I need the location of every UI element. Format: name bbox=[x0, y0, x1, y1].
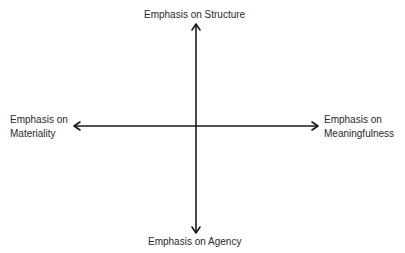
label-bottom-agency: Emphasis on Agency bbox=[148, 236, 241, 248]
label-right-line2: Meaningfulness bbox=[324, 128, 394, 140]
label-left-line2: Materiality bbox=[10, 128, 68, 140]
label-left-materiality: Emphasis on Materiality bbox=[10, 114, 68, 140]
label-right-line1: Emphasis on bbox=[324, 114, 394, 126]
label-right-meaningfulness: Emphasis on Meaningfulness bbox=[324, 114, 394, 140]
label-left-line1: Emphasis on bbox=[10, 114, 68, 126]
label-top-structure: Emphasis on Structure bbox=[144, 9, 245, 21]
